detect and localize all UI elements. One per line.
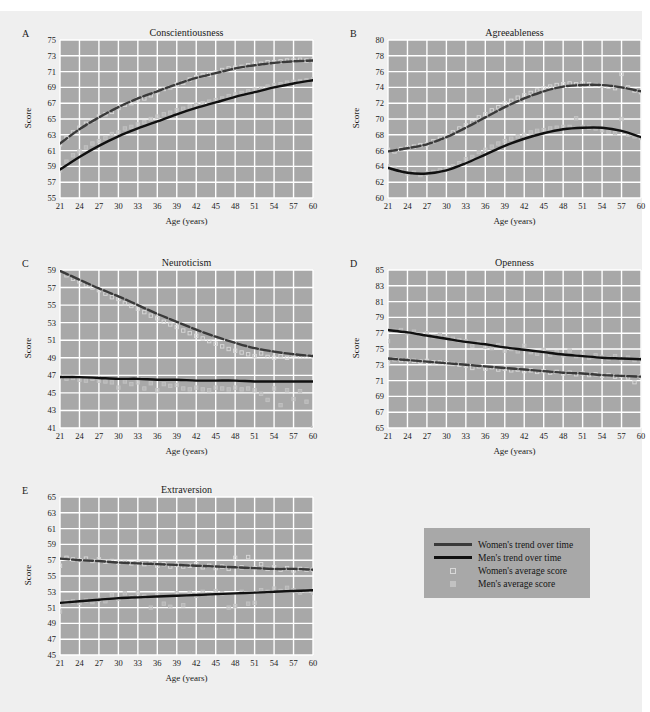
y-tick-label: 83: [376, 281, 385, 291]
scatter-point-men: [510, 137, 513, 140]
x-tick-label: 54: [598, 431, 607, 441]
x-tick-label: 48: [231, 431, 240, 441]
x-tick-label: 30: [442, 431, 451, 441]
x-tick-label: 57: [289, 201, 298, 211]
scatter-point-men: [117, 131, 120, 134]
scatter-point-men: [516, 135, 519, 138]
y-tick-label: 68: [376, 130, 385, 140]
scatter-point-men: [195, 103, 198, 106]
plot-e: 4547495153555759616365212427303336394245…: [20, 485, 327, 689]
y-tick-label: 85: [376, 265, 385, 275]
scatter-point-men: [490, 145, 493, 148]
scatter-point-men: [272, 587, 275, 590]
scatter-point-men: [477, 150, 480, 153]
scatter-point-men: [272, 387, 275, 390]
y-tick-label: 74: [376, 82, 385, 92]
scatter-point-men: [169, 384, 172, 387]
scatter-point-men: [253, 389, 256, 392]
x-tick-label: 51: [250, 658, 259, 668]
scatter-point-men: [386, 339, 389, 342]
scatter-point-men: [182, 107, 185, 110]
scatter-point-men: [78, 150, 81, 153]
x-tick-label: 45: [539, 431, 548, 441]
scatter-point-men: [123, 380, 126, 383]
x-tick-label: 36: [481, 431, 490, 441]
legend-line-swatch: [434, 543, 472, 546]
legend-marker-icon: [450, 568, 456, 574]
scatter-point-men: [503, 139, 506, 142]
scatter-point-men: [227, 388, 230, 391]
x-tick-label: 21: [56, 201, 65, 211]
scatter-point-men: [84, 379, 87, 382]
figure-legend: Women's trend over timeMen's trend over …: [424, 528, 590, 598]
scatter-point-men: [169, 605, 172, 608]
scatter-point-men: [195, 386, 198, 389]
y-tick-label: 67: [48, 98, 57, 108]
x-tick-label: 48: [559, 201, 568, 211]
plot-a: 5557596163656769717375212427303336394245…: [20, 28, 327, 232]
x-tick-label: 33: [462, 201, 471, 211]
y-tick-label: 66: [376, 146, 385, 156]
scatter-point-men: [285, 389, 288, 392]
y-tick-label: 65: [376, 423, 385, 433]
y-tick-label: 64: [376, 161, 385, 171]
scatter-point-men: [471, 344, 474, 347]
scatter-point-men: [574, 117, 577, 120]
x-tick-label: 21: [56, 658, 65, 668]
x-tick-label: 39: [173, 658, 182, 668]
y-tick-label: 51: [48, 335, 57, 345]
y-tick-label: 71: [48, 67, 57, 77]
y-tick-label: 59: [48, 161, 57, 171]
scatter-point-men: [58, 610, 61, 613]
x-tick-label: 57: [617, 431, 626, 441]
y-tick-label: 41: [48, 423, 57, 433]
y-tick-label: 61: [48, 146, 57, 156]
y-tick-label: 55: [48, 193, 57, 203]
y-tick-label: 72: [376, 98, 385, 108]
scatter-point-men: [104, 136, 107, 139]
x-tick-label: 45: [211, 431, 220, 441]
scatter-point-men: [149, 117, 152, 120]
x-tick-label: 60: [309, 201, 318, 211]
scatter-point-men: [438, 333, 441, 336]
scatter-point-men: [497, 142, 500, 145]
panel-d: DOpennessScoreAge (years)656769717375777…: [348, 258, 650, 462]
y-tick-label: 51: [48, 603, 57, 613]
scatter-point-men: [233, 386, 236, 389]
y-tick-label: 61: [48, 524, 57, 534]
x-tick-label: 48: [559, 431, 568, 441]
x-tick-label: 51: [578, 431, 587, 441]
x-tick-label: 57: [289, 431, 298, 441]
x-tick-label: 27: [423, 431, 432, 441]
scatter-point-men: [175, 383, 178, 386]
scatter-point-men: [182, 387, 185, 390]
scatter-point-men: [298, 389, 301, 392]
x-tick-label: 54: [598, 201, 607, 211]
scatter-point-men: [464, 158, 467, 161]
panel-c: CNeuroticismScoreAge (years)414345474951…: [20, 258, 327, 462]
scatter-point-men: [123, 127, 126, 130]
scatter-point-men: [136, 591, 139, 594]
scatter-point-men: [613, 132, 616, 135]
y-tick-label: 75: [48, 35, 57, 45]
scatter-point-men: [266, 398, 269, 401]
y-tick-label: 57: [48, 283, 57, 293]
x-tick-label: 36: [153, 431, 162, 441]
x-tick-label: 36: [481, 201, 490, 211]
x-tick-label: 30: [442, 201, 451, 211]
y-tick-label: 73: [48, 51, 57, 61]
x-tick-label: 36: [153, 658, 162, 668]
scatter-point-men: [78, 378, 81, 381]
x-tick-label: 51: [250, 201, 259, 211]
x-tick-label: 33: [462, 431, 471, 441]
y-tick-label: 47: [48, 370, 57, 380]
panel-b: BAgreeablenessScoreAge (years)6062646668…: [348, 28, 650, 232]
x-tick-label: 24: [75, 431, 84, 441]
scatter-point-men: [503, 349, 506, 352]
y-tick-label: 80: [376, 35, 385, 45]
x-tick-label: 54: [270, 431, 279, 441]
scatter-point-men: [220, 387, 223, 390]
legend-marker-icon: [450, 581, 456, 587]
x-tick-label: 30: [114, 201, 123, 211]
scatter-point-men: [149, 606, 152, 609]
